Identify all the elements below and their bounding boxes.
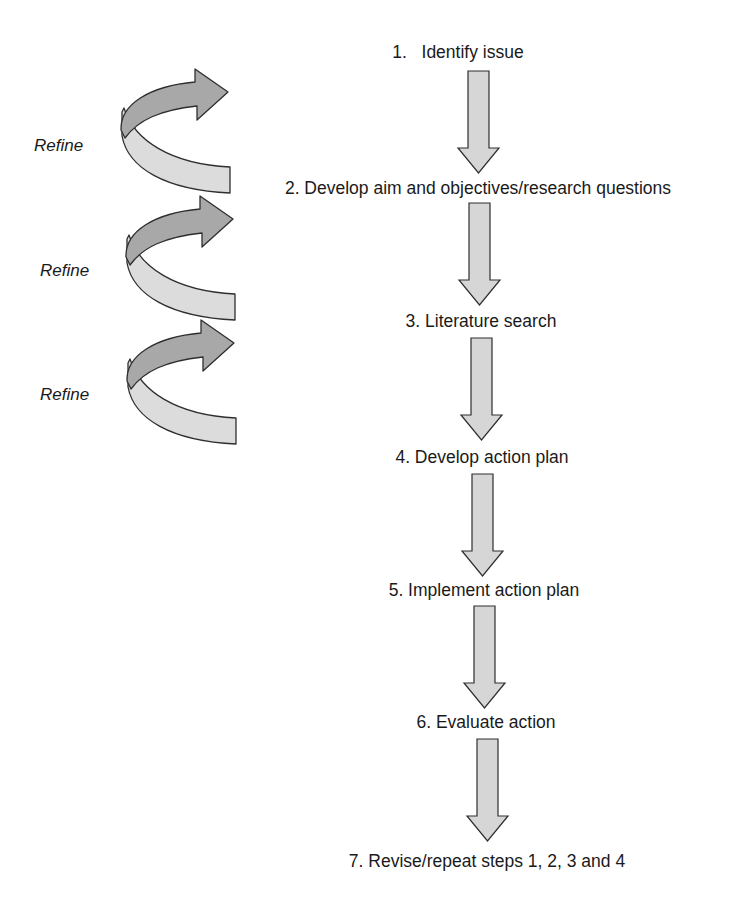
down-arrow-icon <box>462 474 503 576</box>
refine-label: Refine <box>34 137 83 154</box>
down-arrow-icon <box>458 71 499 173</box>
refine-label: Refine <box>40 386 89 403</box>
down-arrow-icon <box>467 739 508 841</box>
refine-spiral-arrow-icon <box>126 196 235 320</box>
step-1-label: 1. Identify issue <box>392 44 523 62</box>
refine-label: Refine <box>40 262 89 279</box>
down-arrow-icon <box>461 338 502 440</box>
step-3-label: 3. Literature search <box>406 313 557 331</box>
refine-spiral-arrow-icon <box>127 320 236 444</box>
diagram-graphics <box>0 0 747 913</box>
step-7-label: 7. Revise/repeat steps 1, 2, 3 and 4 <box>349 853 625 871</box>
down-arrow-icon <box>464 606 505 708</box>
step-5-label: 5. Implement action plan <box>389 582 580 600</box>
down-arrow-icon <box>459 203 500 305</box>
action-research-diagram: Refine Refine Refine 1. Identify issue 2… <box>0 0 747 913</box>
step-6-label: 6. Evaluate action <box>416 714 555 732</box>
step-2-label: 2. Develop aim and objectives/research q… <box>285 180 671 198</box>
step-4-label: 4. Develop action plan <box>395 449 568 467</box>
refine-spiral-arrow-icon <box>121 69 230 193</box>
